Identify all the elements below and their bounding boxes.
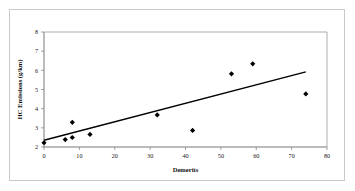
x-tick-label: 60 xyxy=(253,152,259,159)
x-tick-label: 30 xyxy=(147,152,153,159)
data-point xyxy=(190,128,195,133)
y-tick-label: 5 xyxy=(35,86,38,93)
y-tick-label: 6 xyxy=(35,67,38,74)
data-point xyxy=(87,132,92,137)
x-tick-label: 40 xyxy=(182,152,188,159)
x-tick-label: 20 xyxy=(112,152,118,159)
data-point xyxy=(63,137,68,142)
data-point xyxy=(155,112,160,117)
data-point xyxy=(70,120,75,125)
data-point xyxy=(229,71,234,76)
x-tick-label: 0 xyxy=(42,152,45,159)
data-point xyxy=(70,135,75,140)
y-tick-label: 3 xyxy=(35,124,38,131)
x-axis-title: Demerits xyxy=(173,166,199,173)
data-point xyxy=(250,61,255,66)
data-points xyxy=(41,61,308,145)
y-tick-label: 8 xyxy=(35,28,38,35)
x-tick-label: 10 xyxy=(76,152,82,159)
y-tick-label: 4 xyxy=(35,105,38,112)
y-tick-label: 2 xyxy=(35,143,38,150)
y-axis-tick-labels: 2 3 4 5 6 7 8 xyxy=(35,28,38,150)
y-axis-title: HC Emissions (g/km) xyxy=(16,59,24,119)
data-point xyxy=(303,91,308,96)
x-tick-label: 80 xyxy=(324,152,330,159)
x-tick-label: 70 xyxy=(289,152,295,159)
x-tick-label: 50 xyxy=(218,152,224,159)
chart-figure: 2 3 4 5 6 7 8 0 10 20 30 40 50 xyxy=(9,9,345,181)
y-tick-label: 7 xyxy=(35,47,38,54)
scatter-plot: 2 3 4 5 6 7 8 0 10 20 30 40 50 xyxy=(10,10,344,180)
x-axis-tick-labels: 0 10 20 30 40 50 60 70 80 xyxy=(42,152,330,159)
data-point xyxy=(41,140,46,145)
trend-line xyxy=(44,72,306,140)
